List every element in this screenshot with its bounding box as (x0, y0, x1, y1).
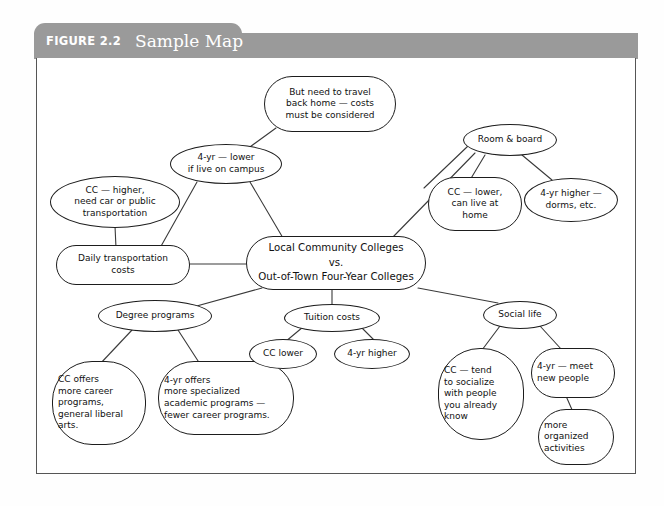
node-label: 4-yr higher (347, 348, 397, 360)
node-four-yr-lower[interactable]: 4-yr — lower if live on campus (170, 144, 282, 184)
node-cc-socialize[interactable]: CC — tend to socialize with people you a… (438, 348, 524, 440)
node-label: 4-yr — lower if live on campus (188, 152, 265, 175)
node-degree-programs[interactable]: Degree programs (98, 300, 212, 332)
node-label: Tuition costs (304, 312, 360, 324)
node-social-life[interactable]: Social life (483, 301, 557, 329)
node-label: But need to travel back home — costs mus… (285, 87, 374, 122)
node-travel-home[interactable]: But need to travel back home — costs mus… (264, 76, 396, 132)
node-cc-higher[interactable]: CC — higher, need car or public transpor… (50, 176, 180, 228)
node-four-yr-higher[interactable]: 4-yr higher (334, 339, 410, 369)
node-more-organized[interactable]: more organized activities (538, 409, 614, 465)
node-label: Room & board (478, 134, 542, 146)
node-label: more organized activities (544, 420, 588, 455)
figure-title: Sample Map (135, 31, 243, 51)
node-room-board[interactable]: Room & board (463, 124, 557, 156)
node-center-topic[interactable]: Local Community Colleges vs. Out-of-Town… (246, 236, 426, 290)
figure-banner: FIGURE 2.2 Sample Map (34, 23, 638, 59)
node-cc-career[interactable]: CC offers more career programs, general … (52, 361, 146, 445)
banner-text: FIGURE 2.2 Sample Map (34, 23, 242, 59)
figure-container: FIGURE 2.2 Sample Map (0, 0, 664, 506)
node-label: 4-yr — meet new people (537, 361, 593, 384)
node-four-yr-dorms[interactable]: 4-yr higher — dorms, etc. (524, 178, 618, 222)
node-label: CC lower (263, 348, 303, 360)
node-tuition-costs[interactable]: Tuition costs (284, 304, 380, 332)
node-label: Degree programs (116, 310, 195, 322)
node-label: 4-yr offers more specialized academic pr… (164, 375, 270, 421)
node-label: Social life (498, 309, 541, 321)
node-label: CC — lower, can live at home (448, 187, 503, 222)
figure-number: FIGURE 2.2 (46, 34, 121, 48)
node-label: Local Community Colleges vs. Out-of-Town… (258, 241, 413, 285)
node-label: CC offers more career programs, general … (58, 374, 123, 432)
node-four-yr-meet[interactable]: 4-yr — meet new people (531, 348, 615, 398)
node-label: CC — higher, need car or public transpor… (74, 185, 156, 220)
node-four-yr-academic[interactable]: 4-yr offers more specialized academic pr… (158, 361, 294, 435)
node-label: Daily transportation costs (78, 253, 168, 276)
node-cc-lower-tuition[interactable]: CC lower (249, 339, 317, 369)
node-label: CC — tend to socialize with people you a… (444, 365, 497, 423)
node-cc-lower-home[interactable]: CC — lower, can live at home (428, 177, 522, 231)
node-label: 4-yr higher — dorms, etc. (540, 188, 601, 211)
node-daily-transport[interactable]: Daily transportation costs (56, 245, 190, 285)
